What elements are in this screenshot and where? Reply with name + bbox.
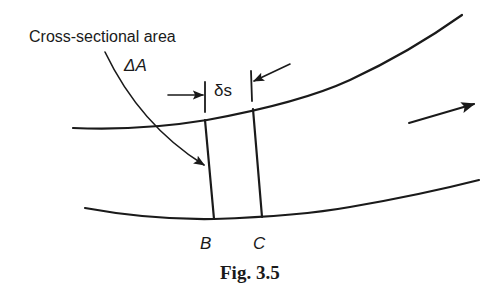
section-label-c: C [253,234,266,253]
extension-tick-c [251,71,252,101]
figure-caption: Fig. 3.5 [220,262,280,283]
streamtube-diagram: Cross-sectional area ΔA δs B C Fig. 3.5 [0,0,503,289]
area-label: Cross-sectional area [29,28,176,45]
area-symbol: ΔA [123,56,147,75]
section-line-b [205,120,214,219]
length-symbol: δs [214,81,232,100]
section-line-c [253,109,262,217]
section-label-b: B [200,234,211,253]
flow-direction-arrow-icon [409,104,474,123]
dimension-arrow-right-icon [254,64,290,81]
lower-boundary-curve [85,180,479,219]
area-pointer-arrow-icon [105,52,204,165]
